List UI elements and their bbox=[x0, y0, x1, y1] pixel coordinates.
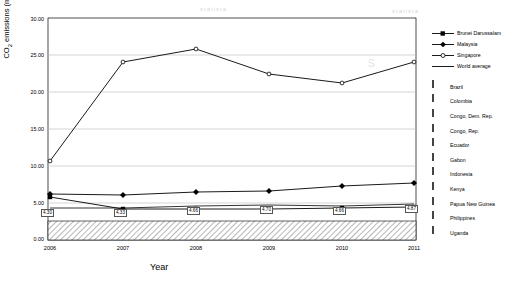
data-label-2010: 4.66 bbox=[333, 207, 346, 215]
svg-text:2006: 2006 bbox=[44, 245, 56, 251]
legend-item-world-average[interactable]: World average bbox=[432, 61, 512, 72]
legend-label: Uganda bbox=[450, 229, 468, 238]
watermark-top: statista bbox=[200, 6, 227, 12]
legend-item-kenya[interactable]: Kenya bbox=[432, 182, 512, 197]
hatch-swatch-icon bbox=[432, 139, 446, 152]
legend-label: Singapore bbox=[457, 51, 481, 60]
legend-hatched-countries: Brazil Colombia Congo, Dem. Rep. Congo, … bbox=[432, 80, 512, 241]
hatch-swatch-icon bbox=[432, 198, 446, 211]
legend-label: Brazil bbox=[450, 83, 463, 92]
hatch-swatch-icon bbox=[432, 212, 446, 225]
watermark-top-right: statista bbox=[392, 8, 419, 14]
svg-text:2009: 2009 bbox=[263, 245, 275, 251]
legend-item-gabon[interactable]: Gabon bbox=[432, 153, 512, 168]
legend-lines: Brunei Darussalam Malaysia Singapore Wor… bbox=[432, 28, 512, 72]
data-label-2008: 4.66 bbox=[187, 207, 200, 215]
data-label-2007: 4.33 bbox=[114, 209, 127, 217]
hatch-swatch-icon bbox=[432, 183, 446, 196]
svg-text:2007: 2007 bbox=[117, 245, 129, 251]
legend-label: Congo, Rep. bbox=[450, 127, 479, 136]
data-label-2006: 4.30 bbox=[41, 209, 54, 217]
hatch-swatch-icon bbox=[432, 154, 446, 167]
legend-item-uganda[interactable]: Uganda bbox=[432, 226, 512, 241]
chart-root: CO2 emissions (metric tonnes per capita)… bbox=[0, 0, 514, 281]
svg-text:0.00: 0.00 bbox=[34, 236, 45, 242]
legend-item-indonesia[interactable]: Indonesia bbox=[432, 168, 512, 183]
hatch-swatch-icon bbox=[432, 95, 446, 108]
hatch-swatch-icon bbox=[432, 227, 446, 240]
chart-svg: 0.00 5.00 10.00 15.00 20.00 25.00 30.00 … bbox=[0, 0, 430, 281]
legend-label: Colombia bbox=[450, 97, 472, 106]
legend-label: World average bbox=[457, 62, 491, 71]
svg-text:2008: 2008 bbox=[190, 245, 202, 251]
legend-label: Papua New Guinea bbox=[450, 200, 495, 209]
svg-text:25.00: 25.00 bbox=[31, 52, 45, 58]
legend-label: Malaysia bbox=[457, 40, 477, 49]
legend-item-malaysia[interactable]: Malaysia bbox=[432, 39, 512, 50]
svg-text:2010: 2010 bbox=[336, 245, 348, 251]
legend-label: Gabon bbox=[450, 156, 466, 165]
legend-item-papua-new-guinea[interactable]: Papua New Guinea bbox=[432, 197, 512, 212]
svg-text:30.00: 30.00 bbox=[31, 16, 45, 22]
hatched-band bbox=[48, 221, 416, 240]
legend-label: Brunei Darussalam bbox=[457, 29, 501, 38]
legend-label: Ecuador bbox=[450, 141, 469, 150]
svg-text:2011: 2011 bbox=[408, 245, 420, 251]
legend-item-congo-rep[interactable]: Congo, Rep. bbox=[432, 124, 512, 139]
legend-item-singapore[interactable]: Singapore bbox=[432, 50, 512, 61]
legend-item-brunei[interactable]: Brunei Darussalam bbox=[432, 28, 512, 39]
svg-text:5.00: 5.00 bbox=[34, 200, 45, 206]
legend-label: Kenya bbox=[450, 185, 465, 194]
circle-marker-icon bbox=[432, 51, 454, 60]
data-label-2011: 4.87 bbox=[405, 205, 418, 213]
legend-label: Indonesia bbox=[450, 170, 473, 179]
legend-item-philippines[interactable]: Philippines bbox=[432, 211, 512, 226]
data-label-2009: 4.70 bbox=[260, 206, 273, 214]
line-marker-icon bbox=[432, 62, 454, 71]
hatch-swatch-icon bbox=[432, 125, 446, 138]
square-marker-icon bbox=[432, 29, 454, 38]
hatch-swatch-icon bbox=[432, 168, 446, 181]
legend-item-brazil[interactable]: Brazil bbox=[432, 80, 512, 95]
hatch-swatch-icon bbox=[432, 110, 446, 123]
legend-item-ecuador[interactable]: Ecuador bbox=[432, 138, 512, 153]
svg-text:15.00: 15.00 bbox=[31, 126, 45, 132]
legend-item-colombia[interactable]: Colombia bbox=[432, 95, 512, 110]
svg-text:20.00: 20.00 bbox=[31, 89, 45, 95]
x-tick-labels: 2006 2007 2008 2009 2010 2011 bbox=[44, 245, 420, 251]
watermark-center: S bbox=[368, 58, 376, 69]
plot-area: CO2 emissions (metric tonnes per capita)… bbox=[0, 0, 430, 281]
legend-label: Congo, Dem. Rep. bbox=[450, 112, 493, 121]
diamond-marker-icon bbox=[432, 40, 454, 49]
svg-text:10.00: 10.00 bbox=[31, 163, 45, 169]
hatch-swatch-icon bbox=[432, 81, 446, 94]
legend-label: Philippines bbox=[450, 214, 475, 223]
legend-item-congo-dem-rep[interactable]: Congo, Dem. Rep. bbox=[432, 109, 512, 124]
